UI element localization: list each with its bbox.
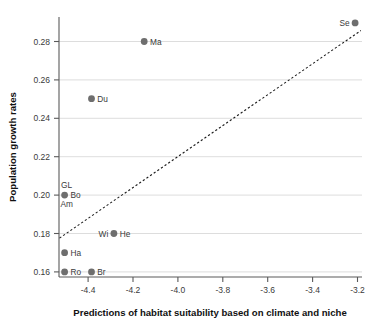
- y-tick-labels: 0.28 0.26 0.24 0.22 0.20 0.18 0.16: [33, 37, 50, 277]
- x-axis-title: Predictions of habitat suitability based…: [73, 307, 346, 318]
- point-label-br: Br: [97, 267, 106, 277]
- x-tick-label--3.4: -3.4: [305, 285, 320, 295]
- point-label-he: He: [120, 229, 131, 239]
- x-tick-label--3.8: -3.8: [215, 285, 230, 295]
- point-label-ma: Ma: [150, 37, 162, 47]
- y-tickmarks: [54, 42, 59, 272]
- point-label-du: Du: [97, 94, 108, 104]
- y-tick-label-0.26: 0.26: [33, 75, 50, 85]
- point-label-se: Se: [339, 18, 350, 28]
- x-tick-label--4.0: -4.0: [171, 285, 186, 295]
- y-tick-label-0.16: 0.16: [33, 267, 50, 277]
- point-label-am: Am: [61, 199, 74, 209]
- x-tick-label--3.2: -3.2: [350, 285, 365, 295]
- data-point-gl-bo-am[interactable]: [61, 192, 68, 199]
- point-label-ro: Ro: [70, 267, 81, 277]
- scatter-plot-figure: 0.28 0.26 0.24 0.22 0.20 0.18 0.16 -4.4 …: [0, 0, 382, 329]
- data-point-du[interactable]: [88, 95, 95, 102]
- y-tick-label-0.20: 0.20: [33, 190, 50, 200]
- x-tick-label--4.2: -4.2: [126, 285, 141, 295]
- point-label-wi: Wi: [99, 229, 109, 239]
- point-label-gl: GL: [61, 180, 72, 190]
- x-tick-label--4.4: -4.4: [81, 285, 96, 295]
- data-point-ro[interactable]: [61, 269, 68, 276]
- data-point-ma[interactable]: [141, 38, 148, 45]
- trendline: [60, 31, 361, 239]
- point-labels: Se Ma Du GL Bo Am Wi He Ha Ro Br: [61, 18, 350, 277]
- x-tickmarks: [88, 277, 357, 282]
- x-tick-labels: -4.4 -4.2 -4.0 -3.8 -3.6 -3.4 -3.2: [81, 285, 365, 295]
- data-point-ha[interactable]: [61, 249, 68, 256]
- data-point-br[interactable]: [88, 269, 95, 276]
- y-tick-label-0.24: 0.24: [33, 113, 50, 123]
- data-point-wi-he[interactable]: [111, 230, 118, 237]
- y-axis-title: Population growth rates: [7, 92, 18, 202]
- chart-canvas: 0.28 0.26 0.24 0.22 0.20 0.18 0.16 -4.4 …: [0, 0, 382, 329]
- x-tick-label--3.6: -3.6: [260, 285, 275, 295]
- data-point-se[interactable]: [352, 20, 359, 27]
- y-tick-label-0.18: 0.18: [33, 229, 50, 239]
- y-tick-label-0.28: 0.28: [33, 37, 50, 47]
- point-label-ha: Ha: [70, 248, 81, 258]
- y-tick-label-0.22: 0.22: [33, 152, 50, 162]
